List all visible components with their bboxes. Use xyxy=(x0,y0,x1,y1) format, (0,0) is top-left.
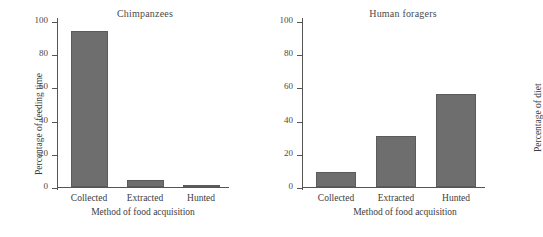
y-axis-line xyxy=(302,18,303,190)
y-tick-100: 100 xyxy=(52,22,57,23)
y-axis-line xyxy=(57,18,58,190)
chart-panel-human-foragers: Human foragers Percentage of diet 0 20 4… xyxy=(254,0,508,237)
x-axis-line xyxy=(57,187,229,188)
y-tick-40: 40 xyxy=(52,122,57,123)
y-tick-60: 60 xyxy=(297,88,302,89)
bar-collected xyxy=(71,31,108,187)
x-category-hunted: Hunted xyxy=(442,193,470,203)
y-tick-100: 100 xyxy=(297,22,302,23)
x-axis-label: Method of food acquisition xyxy=(16,207,270,217)
y-tick-40: 40 xyxy=(297,122,302,123)
x-category-extracted: Extracted xyxy=(378,193,414,203)
y-axis-label: Percentage of diet xyxy=(533,83,543,152)
plot-area: 0 20 40 60 80 100 xyxy=(57,22,226,188)
x-category-collected: Collected xyxy=(318,193,354,203)
y-tick-20: 20 xyxy=(52,155,57,156)
x-category-hunted: Hunted xyxy=(187,193,215,203)
x-category-collected: Collected xyxy=(71,193,107,203)
y-tick-80: 80 xyxy=(52,55,57,56)
bar-hunted xyxy=(183,185,220,187)
y-tick-60: 60 xyxy=(52,88,57,89)
bar-hunted xyxy=(436,94,476,187)
plot-area: 0 20 40 60 80 100 xyxy=(302,22,482,188)
bar-extracted xyxy=(376,136,416,187)
x-axis-line xyxy=(302,187,485,188)
x-category-extracted: Extracted xyxy=(127,193,163,203)
x-axis-label: Method of food acquisition xyxy=(278,207,532,217)
y-tick-0: 0 xyxy=(297,188,302,189)
chart-title: Human foragers xyxy=(276,8,530,19)
bar-collected xyxy=(316,172,356,187)
y-tick-20: 20 xyxy=(297,155,302,156)
y-tick-0: 0 xyxy=(52,188,57,189)
y-tick-80: 80 xyxy=(297,55,302,56)
chart-panel-chimpanzees: Chimpanzees Percentage of feeding time 0… xyxy=(0,0,254,237)
bar-extracted xyxy=(127,180,164,187)
